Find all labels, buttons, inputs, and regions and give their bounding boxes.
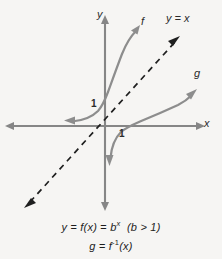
curve-g-label: g (194, 68, 200, 79)
y-axis-arrow-down (101, 202, 109, 211)
caption-exponent-x: x (117, 219, 121, 228)
exponential-inverse-figure: y x f g y = x 1 1 y = f(x) = bx (b > 1) … (0, 0, 222, 259)
figure-caption: y = f(x) = bx (b > 1) g = f-1(x) (0, 216, 222, 253)
identity-line-arrow-end (168, 36, 180, 46)
identity-line-label: y = x (166, 13, 190, 24)
curve-f-arrow-up (131, 25, 140, 35)
x-axis-arrow-left (5, 122, 14, 130)
caption-fx: f(x) (80, 221, 97, 233)
x-axis-tick-one: 1 (119, 129, 125, 139)
y-axis (101, 15, 109, 211)
caption-line-1: y = f(x) = bx (b > 1) (0, 216, 222, 235)
curve-f (64, 25, 140, 125)
caption-of-x: (x) (119, 239, 132, 251)
caption-g: g (89, 239, 95, 251)
caption-line-2: g = f-1(x) (0, 235, 222, 254)
caption-equals-2: = (100, 221, 107, 233)
caption-equals-3: = (99, 239, 106, 251)
x-axis-label: x (204, 118, 210, 129)
caption-equals-1: = (70, 221, 77, 233)
curve-g-arrow-down (106, 155, 114, 166)
y-axis-tick-one: 1 (91, 99, 97, 109)
identity-line-y-equals-x (24, 36, 180, 208)
y-axis-label: y (97, 9, 103, 20)
caption-condition: (b > 1) (127, 221, 161, 233)
identity-line-arrow-start (24, 198, 36, 208)
curve-f-arrow-left (64, 117, 75, 125)
curve-f-label: f (141, 16, 144, 27)
